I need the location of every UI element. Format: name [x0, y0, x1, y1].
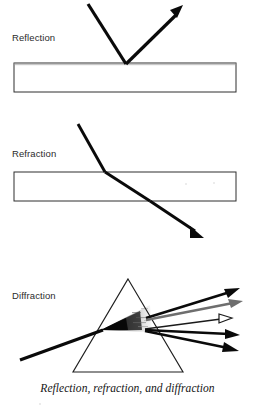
physics-figure: Reflection Refraction: [0, 0, 255, 410]
reflection-slab: [14, 63, 236, 92]
slab-dust-mark: [185, 183, 186, 184]
panel-label-diffraction: Diffraction: [12, 290, 56, 301]
slab-dust-mark: [213, 182, 214, 183]
figure-caption: Reflection, refraction, and diffraction: [39, 382, 215, 395]
panel-label-reflection: Reflection: [12, 32, 55, 43]
page-dust-mark: [39, 403, 41, 405]
figure-canvas: Reflection Refraction: [0, 0, 255, 410]
slab-outline: [14, 63, 236, 92]
panel-label-refraction: Refraction: [12, 148, 56, 159]
